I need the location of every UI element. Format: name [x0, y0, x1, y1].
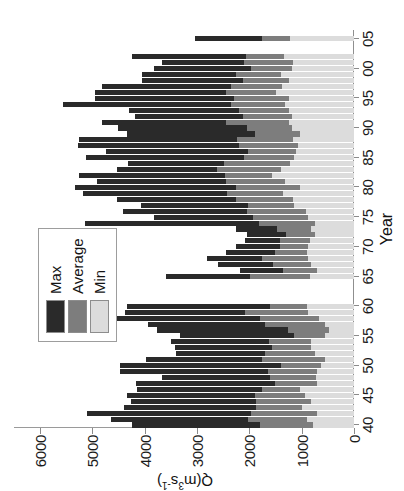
bar-group: [236, 244, 354, 249]
bar-group: [166, 274, 354, 279]
legend-item-min: Min: [90, 238, 109, 333]
legend-item-average: Average: [68, 238, 87, 333]
bar-segment-min: [276, 90, 354, 95]
bar-segment-min: [289, 78, 354, 83]
bar-group: [180, 333, 354, 338]
bar-group: [120, 369, 354, 374]
bar-segment-min: [329, 327, 354, 332]
legend-label-max: Max: [47, 266, 64, 294]
bar-segment-min: [315, 351, 354, 356]
category-axis-tick-label: 55: [359, 328, 376, 344]
bar-segment-min: [315, 232, 354, 237]
legend-item-max: Max: [46, 238, 65, 333]
bar-segment-min: [289, 108, 354, 113]
value-axis-tick: [302, 428, 303, 434]
value-axis-tick: [197, 428, 198, 434]
bar-group: [175, 345, 354, 350]
value-axis-tick-label: 3000: [189, 435, 206, 467]
bar-segment-min: [307, 304, 354, 309]
bar-segment-min: [316, 375, 354, 380]
bar-segment-min: [281, 167, 354, 172]
bar-segment-min: [292, 114, 354, 119]
legend-swatch-min: [90, 300, 109, 333]
bar-segment-min: [319, 316, 354, 321]
bar-segment-min: [296, 149, 354, 154]
bar-group: [117, 167, 354, 172]
bar-group: [142, 72, 354, 77]
bar-group: [125, 310, 354, 315]
bar-segment-min: [300, 185, 354, 190]
bar-segment-min: [272, 173, 354, 178]
bar-group: [83, 191, 354, 196]
bar-segment-min: [310, 274, 354, 279]
bar-segment-min: [313, 423, 354, 428]
bar-segment-min: [294, 155, 354, 160]
bar-group: [195, 36, 354, 41]
bar-segment-min: [307, 250, 354, 255]
bar-segment-min: [283, 191, 354, 196]
plot-area: 6000500040003000200010000 40455055606570…: [14, 30, 354, 428]
bar-segment-min: [302, 405, 354, 410]
bar-segment-min: [311, 345, 354, 350]
bar-segment-min: [282, 84, 354, 89]
legend: Max Average Min: [38, 228, 117, 342]
bar-group: [86, 155, 354, 160]
bar-group: [63, 102, 354, 107]
bar-segment-min: [308, 244, 354, 249]
bar-segment-min: [290, 36, 354, 41]
bar-group: [141, 203, 354, 208]
category-axis-tick-label: 05: [359, 31, 376, 47]
bar-group: [162, 375, 354, 380]
bar-segment-min: [289, 96, 354, 101]
bar-group: [226, 250, 354, 255]
bar-group: [120, 363, 354, 368]
bar-group: [111, 417, 354, 422]
bar-segment-min: [285, 102, 354, 107]
bar-group: [118, 125, 354, 130]
category-axis-tick-label: 40: [359, 417, 376, 433]
bar-group: [245, 238, 354, 243]
bar-group: [131, 399, 354, 404]
value-axis-tick-label: 1000: [293, 435, 310, 467]
bar-group: [87, 411, 354, 416]
bar-group: [95, 90, 354, 95]
category-axis-tick-label: 65: [359, 268, 376, 284]
value-axis-title: Q(m3s-1): [157, 473, 213, 491]
bar-segment-min: [292, 125, 354, 130]
bar-segment-min: [315, 221, 354, 226]
bar-segment-min: [289, 120, 354, 125]
value-axis-tick-label: 0: [346, 435, 363, 443]
value-axis-tick-label: 6000: [32, 435, 49, 467]
value-axis-tick: [249, 428, 250, 434]
category-axis-tick-label: 75: [359, 209, 376, 225]
bar-group: [218, 262, 354, 267]
bar-segment-min: [311, 262, 354, 267]
bar-segment-min: [298, 143, 354, 148]
category-axis-tick-label: 70: [359, 239, 376, 255]
category-axis-tick-label: 60: [359, 298, 376, 314]
bar-group: [85, 221, 354, 226]
bar-segment-min: [317, 381, 354, 386]
bar-segment-min: [285, 179, 354, 184]
legend-label-average: Average: [69, 238, 86, 294]
category-axis-tick-label: 90: [359, 120, 376, 136]
value-axis-tick: [145, 428, 146, 434]
bar-group: [102, 120, 354, 125]
value-axis-tick: [92, 428, 93, 434]
bar-group: [240, 268, 354, 273]
value-axis-title-exponent-minus1: -1: [162, 480, 171, 491]
value-axis-title-q: Q: [201, 473, 213, 490]
bar-group: [162, 60, 354, 65]
bar-group: [135, 114, 354, 119]
bar-group: [128, 161, 354, 166]
bar-group: [75, 185, 354, 190]
category-axis-tick-label: 00: [359, 61, 376, 77]
bar-segment-min: [300, 387, 354, 392]
category-axis-tick-label: 80: [359, 179, 376, 195]
bar-segment-min: [311, 226, 354, 231]
category-axis-tick-label: 50: [359, 358, 376, 374]
bar-segment-min: [311, 399, 354, 404]
category-axis-title: Year: [378, 30, 396, 428]
bar-segment-min: [308, 310, 354, 315]
